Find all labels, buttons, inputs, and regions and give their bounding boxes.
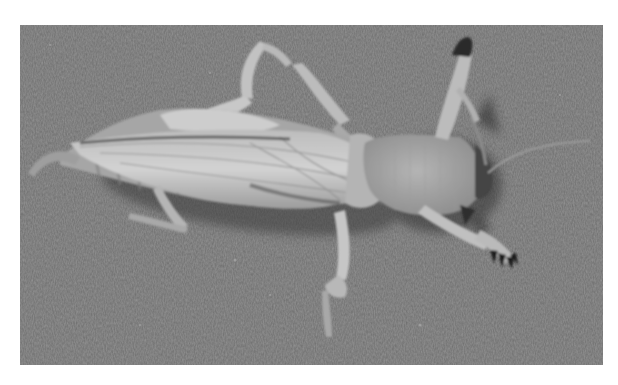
mole-cricket-illustration: [20, 25, 603, 365]
photograph: Grayscale photograph of a mole cricket v…: [20, 25, 603, 365]
